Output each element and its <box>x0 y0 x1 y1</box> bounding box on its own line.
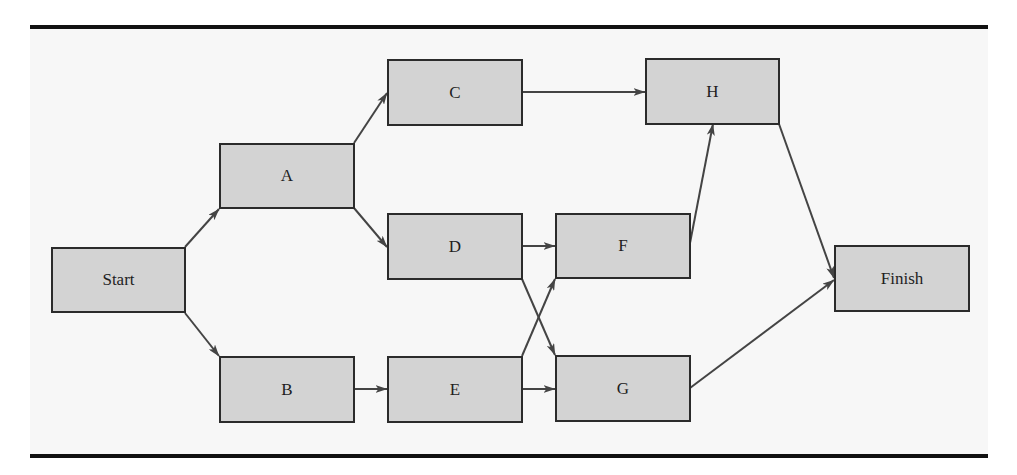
node-label: A <box>281 166 293 186</box>
node-b[interactable]: B <box>219 356 355 423</box>
node-label: Finish <box>881 269 924 289</box>
node-a[interactable]: A <box>219 143 355 209</box>
top-rule <box>30 25 988 29</box>
node-label: H <box>706 82 718 102</box>
node-h[interactable]: H <box>645 58 780 125</box>
node-e[interactable]: E <box>387 356 523 423</box>
bottom-rule <box>30 454 988 458</box>
node-start[interactable]: Start <box>51 247 186 313</box>
node-label: D <box>449 237 461 257</box>
node-label: E <box>450 380 460 400</box>
node-c[interactable]: C <box>387 59 523 126</box>
node-label: G <box>617 379 629 399</box>
node-finish[interactable]: Finish <box>834 245 970 312</box>
node-label: B <box>281 380 292 400</box>
node-label: C <box>449 83 460 103</box>
node-f[interactable]: F <box>555 213 691 279</box>
node-label: Start <box>102 270 134 290</box>
node-d[interactable]: D <box>387 213 523 280</box>
node-g[interactable]: G <box>555 355 691 422</box>
node-label: F <box>618 236 627 256</box>
